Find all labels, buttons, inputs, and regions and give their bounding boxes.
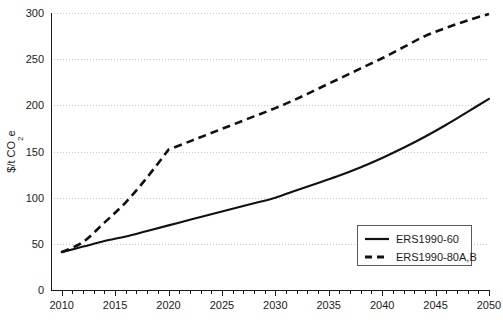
data-series-group — [62, 14, 489, 252]
legend-label-2: ERS1990-80A,B — [396, 251, 477, 263]
y-tick-label-0: 0 — [38, 284, 44, 296]
y-tick-label-300: 300 — [26, 7, 44, 19]
y-tick-label-100: 100 — [26, 192, 44, 204]
y-tick-labels-group: 050100150200250300 — [26, 7, 44, 296]
x-tick-label-2050: 2050 — [477, 299, 501, 311]
y-tick-label-150: 150 — [26, 146, 44, 158]
y-axis-title: $/t CO2e — [5, 130, 25, 172]
x-tick-labels-group: 201020152020202520302035204020452050 — [49, 299, 501, 311]
y-tick-label-50: 50 — [32, 238, 44, 250]
legend-label-1: ERS1990-60 — [396, 233, 459, 245]
x-tick-marks-group — [62, 290, 489, 296]
y-tick-label-250: 250 — [26, 53, 44, 65]
y-axis-title-group: $/t CO2e — [5, 130, 25, 172]
legend: ERS1990-60ERS1990-80A,B — [358, 226, 477, 266]
x-tick-label-2010: 2010 — [49, 299, 73, 311]
line-chart: 050100150200250300 201020152020202520302… — [0, 0, 503, 324]
x-tick-label-2015: 2015 — [103, 299, 127, 311]
y-tick-label-200: 200 — [26, 99, 44, 111]
series-line-2 — [62, 14, 489, 252]
x-tick-label-2040: 2040 — [370, 299, 394, 311]
chart-container: 050100150200250300 201020152020202520302… — [0, 0, 503, 324]
x-tick-label-2035: 2035 — [317, 299, 341, 311]
x-tick-label-2025: 2025 — [210, 299, 234, 311]
x-tick-label-2045: 2045 — [423, 299, 447, 311]
x-tick-label-2030: 2030 — [263, 299, 287, 311]
x-tick-label-2020: 2020 — [156, 299, 180, 311]
